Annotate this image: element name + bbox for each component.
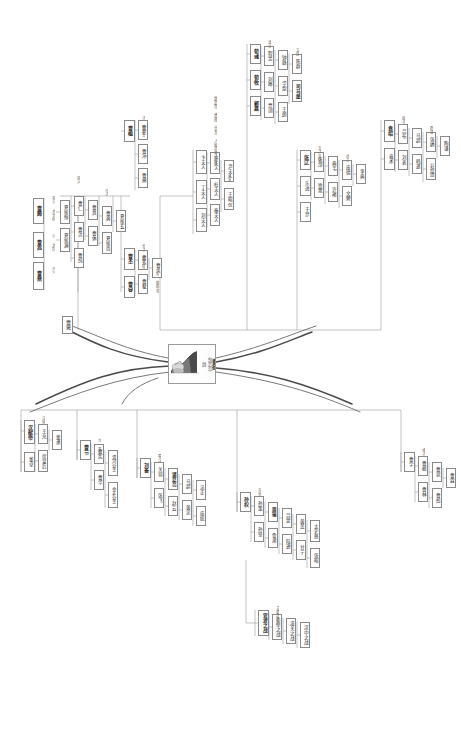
mindmap-node[interactable]: 太史慈	[310, 520, 320, 542]
mindmap-node[interactable]: 曹丕	[124, 248, 135, 270]
mindmap-node[interactable]: 潼关之战	[286, 618, 296, 644]
mindmap-node[interactable]: 陆逊	[282, 534, 292, 554]
mindmap-node[interactable]: 钟繇	[278, 50, 288, 70]
mindmap-node[interactable]: 刘夫人	[196, 208, 207, 232]
mindmap-label: 长子 魏文帝	[137, 244, 145, 274]
mindmap-node[interactable]: 孙坚	[254, 522, 264, 542]
mindmap-node[interactable]: 曹林	[418, 482, 428, 502]
mindmap-node[interactable]: 伏皇后	[38, 450, 48, 472]
mindmap-node[interactable]: 贾诩	[264, 98, 274, 118]
mindmap-node[interactable]: 荀彧	[250, 44, 261, 64]
mindmap-node[interactable]: 典韦	[328, 156, 338, 176]
mindmap-node[interactable]: 文聘	[342, 186, 352, 206]
mindmap-node[interactable]: 张飞	[154, 488, 164, 508]
mindmap-node[interactable]: 甘宁	[296, 540, 306, 560]
mindmap-node[interactable]: 曹节	[80, 440, 91, 460]
mindmap-node[interactable]: 庞统	[196, 506, 206, 526]
mindmap-node[interactable]: 马超	[412, 128, 422, 148]
mindmap-node[interactable]: 汉中之战	[300, 622, 310, 648]
mindmap-node[interactable]: 刘晔	[264, 72, 274, 92]
mindmap-node[interactable]: 于禁	[300, 202, 311, 222]
center-portrait-node[interactable]: 曹操 （魏武帝） 魏	[168, 344, 216, 384]
mindmap-node[interactable]: 袁绍	[384, 120, 395, 142]
mindmap-node[interactable]: 曹腾	[33, 198, 44, 224]
mindmap-node[interactable]: 曹彪	[432, 488, 442, 508]
mindmap-node[interactable]: 董承	[52, 430, 62, 450]
mindmap-label: 主要战役	[271, 606, 279, 630]
mindmap-node[interactable]: 张辽	[300, 150, 311, 170]
mindmap-node[interactable]: 鲁肃	[268, 528, 278, 548]
mindmap-node[interactable]: 夏侯惇	[60, 200, 70, 224]
mindmap-label: 女 皇后	[93, 438, 101, 460]
mindmap-node[interactable]: 公孙瓒	[426, 158, 436, 180]
mindmap-label: 汉室	[37, 416, 45, 432]
mindmap-label: 族人	[72, 176, 80, 192]
mindmap-node[interactable]: 李典	[356, 164, 366, 184]
mindmap-node[interactable]: 黄忠	[182, 500, 192, 520]
mindmap-label: 东吴	[253, 488, 261, 504]
mindmap-label: 祖父 大长秋	[47, 196, 55, 226]
mindmap-node[interactable]: 刘备	[140, 458, 151, 478]
mindmap-node[interactable]: 赵云	[168, 496, 178, 516]
mindmap-node[interactable]: 董卓	[24, 452, 35, 472]
mindmap-node[interactable]: 曹洪	[74, 222, 84, 242]
mindmap-label: 虎卫	[341, 154, 349, 170]
mindmap-node[interactable]: 曹霖	[446, 468, 456, 488]
mindmap-node[interactable]: 曹华	[94, 470, 104, 490]
mindmap-node[interactable]: 曹睿	[124, 276, 135, 298]
mindmap-node[interactable]: 黄盖	[296, 514, 306, 534]
mindmap-node[interactable]: 曹真	[88, 200, 98, 220]
mindmap-node[interactable]: 曹褒	[62, 316, 73, 334]
mindmap-node[interactable]: 夏侯渊	[60, 228, 70, 252]
mindmap-label: 妾室	[223, 174, 231, 190]
mindmap-node[interactable]: 官渡之战	[258, 610, 269, 636]
connector-lines	[0, 0, 461, 732]
mindmap-node[interactable]: 曹植	[124, 120, 135, 142]
mindmap-label: 群雄	[425, 126, 433, 142]
mindmap-node[interactable]: 韩遂	[412, 154, 422, 174]
mindmap-node[interactable]: 曹髦	[138, 274, 148, 294]
mindmap-node[interactable]: 华歆	[278, 76, 288, 96]
mindmap-node[interactable]: 秦夫人	[210, 204, 220, 226]
mindmap-node[interactable]: 王昭仪	[224, 188, 234, 210]
mindmap-node[interactable]: 曹宇	[404, 452, 415, 472]
mindmap-label: 孙 魏明帝	[151, 272, 159, 298]
mindmap-node[interactable]: 汉献帝	[24, 420, 35, 444]
mindmap-node[interactable]: 王朗	[278, 102, 288, 122]
mindmap-node[interactable]: 乐进	[300, 176, 311, 196]
mindmap-label: 蜀汉	[153, 454, 161, 470]
mindmap-node[interactable]: 杜夫人	[210, 178, 220, 200]
mindmap-node[interactable]: 张昭	[310, 548, 320, 568]
mindmap-node[interactable]: 吕蒙	[282, 508, 292, 528]
mindmap-node[interactable]: 法正	[196, 480, 206, 500]
mindmap-node[interactable]: 曹熊	[138, 168, 148, 188]
mindmap-node[interactable]: 诸葛亮	[168, 468, 178, 490]
mindmap-node[interactable]: 曹仁	[74, 196, 84, 216]
mindmap-node[interactable]: 曹冲	[138, 144, 148, 164]
mindmap-node[interactable]: 陶谦	[440, 136, 450, 156]
mindmap-label: 诸子	[417, 448, 425, 464]
mindmap-node[interactable]: 荀攸	[250, 70, 261, 90]
mindmap-label: 子 陈思王	[137, 116, 145, 142]
mindmap-node[interactable]: 孙权	[240, 492, 251, 512]
mindmap-node[interactable]: 许褚	[328, 182, 338, 202]
mindmap-node[interactable]: 袁术	[384, 148, 395, 170]
mindmap-node[interactable]: 丁夫人	[196, 180, 207, 204]
mindmap-node[interactable]: 曹爽	[102, 206, 112, 226]
mindmap-node[interactable]: 司马懿	[292, 80, 302, 102]
mindmap-node[interactable]: 曹鼎	[33, 262, 44, 290]
mindmap-node[interactable]: 夏侯尚	[102, 232, 112, 254]
mindmap-node[interactable]: 曹嵩	[33, 232, 44, 258]
mindmap-node[interactable]: 曹休	[88, 226, 98, 246]
mindmap-node[interactable]: 金乡公主	[108, 482, 118, 508]
mindmap-node[interactable]: 卞夫人	[196, 150, 207, 174]
mindmap-node[interactable]: 徐晃	[314, 178, 324, 198]
mindmap-node[interactable]: 周瑜	[268, 502, 278, 522]
mindmap-node[interactable]: 清河公主	[108, 450, 118, 476]
mindmap-node[interactable]: 刘表	[398, 150, 408, 170]
mindmap-node[interactable]: 郭嘉	[250, 96, 261, 116]
mindmap-node[interactable]: 马超	[182, 474, 192, 494]
mindmap-node[interactable]: 曹纯	[74, 248, 84, 268]
mindmap-node[interactable]: 夏侯玄	[116, 210, 126, 232]
mindmap-node[interactable]: 曹衮	[432, 462, 442, 482]
